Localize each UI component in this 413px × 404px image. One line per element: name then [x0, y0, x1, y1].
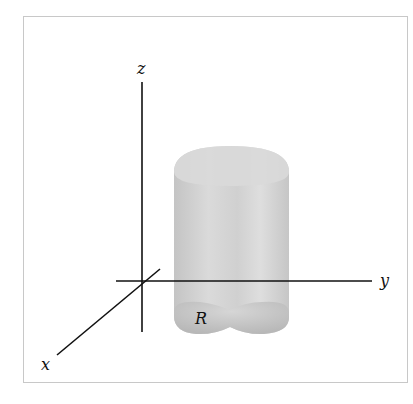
x-axis: [57, 269, 160, 355]
x-axis-label: x: [41, 355, 50, 374]
z-axis-label: z: [136, 59, 146, 78]
solid-region: [174, 146, 289, 334]
y-axis-label: y: [379, 271, 390, 290]
diagram-canvas: z y x R: [0, 0, 413, 404]
region-label: R: [194, 309, 207, 328]
